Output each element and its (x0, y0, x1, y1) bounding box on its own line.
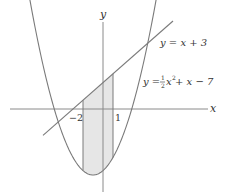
svg-text:2: 2 (161, 82, 165, 89)
tick-label-minus-2: −2 (69, 112, 83, 123)
tick-label-1: 1 (115, 112, 121, 123)
function-graph: y x −2 1 y = x + 3 y = 1 2 x 2 + x − 7 (0, 0, 227, 196)
x-axis-label: x (210, 102, 217, 115)
shaded-region (83, 74, 113, 175)
parabola-equation-label: y = 1 2 x 2 + x − 7 (142, 74, 214, 89)
svg-text:1: 1 (161, 74, 165, 81)
line-equation-label: y = x + 3 (159, 37, 207, 48)
svg-text:y =: y = (142, 76, 160, 87)
y-axis-label: y (99, 8, 107, 21)
svg-text:+ x − 7: + x − 7 (175, 76, 214, 87)
